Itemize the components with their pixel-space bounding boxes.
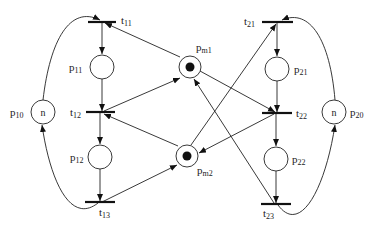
place-p21 [265,57,289,81]
token-pm2 [183,152,192,161]
place-p20-marking: n [332,107,337,118]
petri-net-diagram: n n p10 p11 p12 pm1 pm2 p20 p21 p22 t11 … [0,0,375,229]
place-p22 [264,147,288,171]
label-p12: p12 [70,151,84,165]
arc-t13-p10 [42,125,98,209]
label-t13: t13 [99,206,110,220]
arc-pm2-t12 [104,114,178,146]
label-pm2: pm2 [197,164,213,178]
label-p20: p20 [350,106,364,120]
arc-t23-pm1 [194,79,274,203]
place-p12 [88,145,112,169]
label-pm1: pm1 [196,41,212,55]
arc-t12-pm1 [104,78,180,111]
label-p21: p21 [294,63,308,77]
arc-pm2-t21 [191,24,276,145]
arc-t23-p20 [278,125,335,214]
place-p10-marking: n [41,107,46,118]
arc-t13-pm2 [102,165,177,202]
label-p22: p22 [292,153,306,167]
arc-pm1-t11 [105,23,180,57]
arc-p10-t11 [43,17,100,100]
label-t22: t22 [296,107,307,121]
arc-p20-t21 [282,18,335,100]
arc-t22-pm2 [199,114,274,153]
label-p10: p10 [10,106,24,120]
label-p11: p11 [69,61,82,75]
label-t21: t21 [244,15,255,29]
place-p11 [90,55,114,79]
label-t12: t12 [70,106,81,120]
token-pm1 [186,63,195,72]
label-t11: t11 [121,14,132,28]
label-t23: t23 [263,207,274,221]
